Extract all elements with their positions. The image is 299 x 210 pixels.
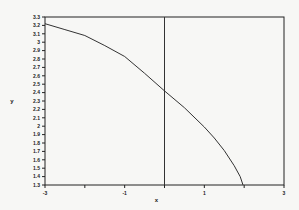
y-tick-label: 1.4 [33, 173, 40, 179]
x-tick-label: 1 [203, 190, 206, 196]
y-tick-label: 2.2 [33, 106, 40, 112]
y-tick-label: 2.8 [33, 56, 40, 62]
y-tick-label: 1.9 [33, 131, 40, 137]
x-tick-label: 3 [283, 190, 286, 196]
y-axis-label: y [10, 98, 14, 104]
y-tick-label: 1.3 [33, 182, 40, 188]
y-tick-label: 2.1 [33, 115, 40, 121]
y-tick-label: 1.6 [33, 157, 40, 163]
y-tick-label: 2.3 [33, 98, 40, 104]
y-tick-label: 1.5 [33, 165, 40, 171]
data-series-curve [45, 24, 243, 185]
y-tick-label: 2.9 [33, 47, 40, 53]
x-axis-label: x [155, 197, 159, 203]
x-tick-label: -1 [122, 190, 127, 196]
y-tick-label: 2.4 [33, 89, 40, 95]
y-tick-label: 2.7 [33, 64, 40, 70]
x-axis: -3-113 [43, 185, 286, 196]
y-tick-label: 1.8 [33, 140, 40, 146]
y-axis: 3.33.23.132.92.82.72.62.52.42.32.22.121.… [33, 14, 45, 188]
x-tick-label: -3 [43, 190, 48, 196]
line-chart: -3-113 3.33.23.132.92.82.72.62.52.42.32.… [0, 0, 299, 210]
y-tick-label: 1.7 [33, 148, 40, 154]
y-tick-label: 3.3 [33, 14, 40, 20]
y-tick-label: 3.2 [33, 22, 40, 28]
y-tick-label: 3.1 [33, 31, 40, 37]
y-tick-label: 2 [37, 123, 40, 129]
y-tick-label: 2.6 [33, 73, 40, 79]
y-tick-label: 2.5 [33, 81, 40, 87]
y-tick-label: 3 [37, 39, 40, 45]
